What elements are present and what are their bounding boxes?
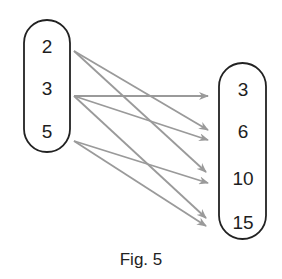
arrow-diagram: 2 3 5 3 6 10 15	[0, 0, 282, 279]
left-element-5: 5	[42, 121, 53, 142]
right-element-6: 6	[238, 121, 249, 142]
left-element-2: 2	[42, 36, 53, 57]
right-element-15: 15	[232, 212, 253, 233]
mapping-arrows	[74, 51, 208, 226]
right-element-10: 10	[232, 168, 253, 189]
arrow-5-to-10	[74, 141, 208, 183]
right-set: 3 6 10 15	[219, 63, 266, 239]
right-element-3: 3	[238, 79, 249, 100]
left-element-3: 3	[42, 78, 53, 99]
figure-caption: Fig. 5	[0, 250, 282, 270]
arrow-3-to-15	[74, 96, 206, 218]
left-set: 2 3 5	[24, 20, 70, 152]
